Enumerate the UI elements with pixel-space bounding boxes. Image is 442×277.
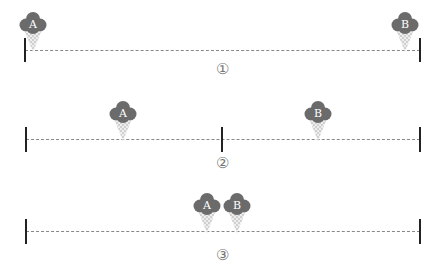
- boundary-marker: [25, 127, 27, 152]
- svg-text:A: A: [202, 199, 212, 212]
- vendor-a-icon: A: [193, 191, 221, 235]
- scenario-label: ①: [214, 61, 230, 77]
- vendor-a-icon: A: [19, 10, 47, 54]
- vendor-b-icon: B: [223, 191, 251, 235]
- beach-line: [26, 139, 420, 140]
- scenario-label: ②: [214, 155, 230, 171]
- svg-text:B: B: [233, 199, 241, 212]
- svg-text:A: A: [28, 18, 38, 31]
- boundary-marker: [25, 219, 27, 244]
- svg-text:B: B: [401, 18, 409, 31]
- svg-text:B: B: [314, 107, 322, 120]
- boundary-marker: [221, 127, 223, 152]
- svg-text:A: A: [118, 107, 128, 120]
- scenario-label: ③: [214, 247, 230, 263]
- boundary-marker: [419, 38, 421, 62]
- boundary-marker: [419, 127, 421, 152]
- vendor-b-icon: B: [304, 99, 332, 143]
- vendor-b-icon: B: [391, 10, 419, 54]
- vendor-a-icon: A: [109, 99, 137, 143]
- beach-line: [25, 50, 420, 51]
- boundary-marker: [419, 219, 421, 244]
